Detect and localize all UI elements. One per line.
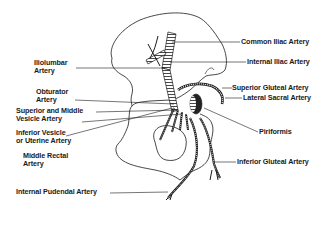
label-inferior-vesicle-uterine-artery: Inferior Vesicle or Uterine Artery xyxy=(16,129,71,146)
lateral-sacral-branch xyxy=(205,68,214,74)
obturator-foramen xyxy=(154,126,187,161)
label-middle-rectal-artery: Middle Rectal Artery xyxy=(23,152,68,169)
label-obturator-artery: Obturator Artery xyxy=(36,88,68,105)
label-common-iliac-artery: Common Iliac Artery xyxy=(241,38,309,46)
label-superior-middle-vesicle-artery: Superior and Middle Vesicle Artery xyxy=(16,107,83,124)
label-piriformis: Piriformis xyxy=(259,128,292,136)
label-inferior-gluteal-artery: Inferior Gluteal Artery xyxy=(237,158,309,166)
label-lateral-sacral-artery: Lateral Sacral Artery xyxy=(243,94,311,102)
pelvic-bone-lower xyxy=(112,58,133,106)
external-iliac-vessel xyxy=(162,68,178,112)
label-superior-gluteal-artery: Superior Gluteal Artery xyxy=(232,84,309,92)
label-iliolumbar-artery: Iliolumbar Artery xyxy=(34,59,67,76)
label-internal-iliac-artery: Internal Iliac Artery xyxy=(247,58,310,66)
label-internal-pudendal-artery: Internal Pudendal Artery xyxy=(16,188,97,196)
